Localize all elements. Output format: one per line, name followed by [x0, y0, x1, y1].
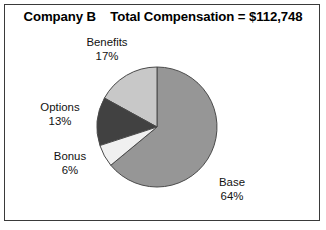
pie-label-benefits-value: 17%: [62, 50, 152, 64]
pie-chart-figure: Company B Total Compensation = $112,748 …: [0, 0, 326, 230]
pie-label-base-value: 64%: [192, 190, 272, 204]
pie-label-bonus-value: 6%: [30, 164, 110, 178]
pie-label-options-value: 13%: [18, 115, 102, 129]
pie-label-bonus-name: Bonus: [30, 150, 110, 164]
pie-label-options: Options 13%: [18, 101, 102, 128]
pie-label-base-name: Base: [192, 176, 272, 190]
pie-label-base: Base 64%: [192, 176, 272, 203]
pie-label-benefits: Benefits 17%: [62, 36, 152, 63]
pie-label-bonus: Bonus 6%: [30, 150, 110, 177]
pie-label-benefits-name: Benefits: [62, 36, 152, 50]
pie-label-options-name: Options: [18, 101, 102, 115]
